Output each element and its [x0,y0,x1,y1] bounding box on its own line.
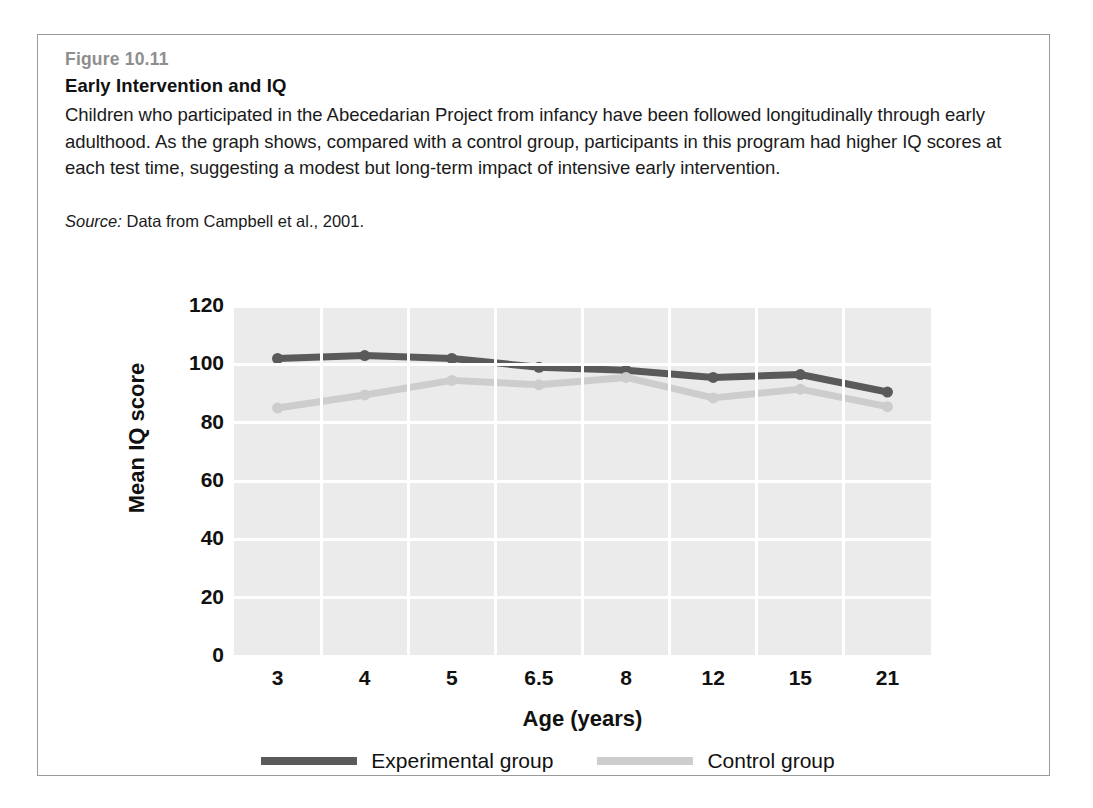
data-point [795,369,806,380]
data-point [446,375,457,386]
x-tick-label: 3 [238,666,318,690]
legend-label: Control group [707,749,834,773]
x-axis-ticks: 3456.58121521 [234,666,931,696]
horizontal-gridline [234,421,931,424]
plot-area [234,306,931,656]
horizontal-gridline [234,363,931,366]
horizontal-gridline [234,655,931,658]
legend-item[interactable]: Control group [597,749,834,773]
y-axis-ticks: 020406080100120 [156,306,224,656]
chart-legend: Experimental groupControl group [158,749,938,773]
chart: Mean IQ score 020406080100120 3456.58121… [38,35,1051,777]
x-axis-title: Age (years) [234,706,931,732]
horizontal-gridline [234,538,931,541]
y-tick-label: 60 [164,468,224,492]
y-tick-label: 20 [164,585,224,609]
y-axis-title: Mean IQ score [124,323,150,553]
x-tick-label: 12 [673,666,753,690]
data-point [708,372,719,383]
y-tick-label: 0 [164,643,224,667]
legend-label: Experimental group [371,749,553,773]
horizontal-gridline [234,480,931,483]
data-point [882,387,893,398]
data-point [359,389,370,400]
x-tick-label: 8 [586,666,666,690]
x-tick-label: 15 [760,666,840,690]
x-tick-label: 6.5 [499,666,579,690]
legend-item[interactable]: Experimental group [261,749,553,773]
legend-swatch-icon [597,757,693,765]
data-point [882,401,893,412]
x-tick-label: 5 [412,666,492,690]
y-tick-label: 80 [164,410,224,434]
horizontal-gridline [234,305,931,308]
data-point [708,392,719,403]
y-tick-label: 120 [164,293,224,317]
data-point [272,403,283,414]
data-point [533,379,544,390]
data-point [359,350,370,361]
horizontal-gridline [234,596,931,599]
x-tick-label: 21 [847,666,927,690]
y-tick-label: 100 [164,351,224,375]
y-tick-label: 40 [164,526,224,550]
legend-swatch-icon [261,757,357,765]
figure-panel: Figure 10.11 Early Intervention and IQ C… [37,34,1050,776]
data-point [621,372,632,383]
x-tick-label: 4 [325,666,405,690]
data-point [795,384,806,395]
